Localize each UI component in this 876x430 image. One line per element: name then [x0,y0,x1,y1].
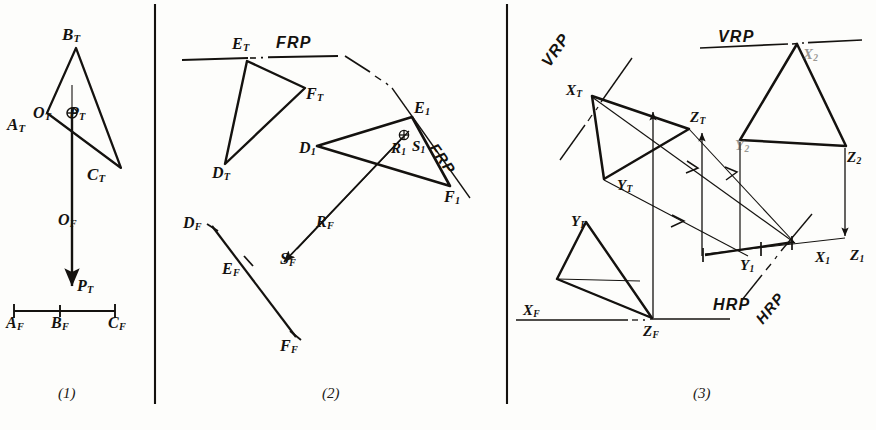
label-z-front: ZF [643,324,659,339]
label-f-aux: F1 [444,189,460,206]
label-s-aux: S1 [412,139,426,154]
label-b-front: BF [51,315,69,332]
label-a-top: AT [7,116,25,134]
label-y-aux2: Y2 [735,138,749,153]
label-x-aux2: X2 [803,47,818,62]
panel2-pierce-point-symbol [399,130,408,139]
caption-panel-2: (2) [322,385,340,402]
label-f-top: FT [306,86,323,103]
caption-panel-1: (1) [58,385,76,402]
label-e-top: ET [232,36,249,53]
label-d-top: DT [212,165,230,182]
label-c-top: CT [87,166,105,184]
label-z-aux1: Z1 [850,248,864,263]
figure-linework [0,0,876,430]
label-r-aux: R1 [391,141,406,156]
label-y-aux1: Y1 [740,258,754,273]
label-o-front: OF [58,212,77,229]
panel3-hrp-center-line [516,319,730,320]
panel2-front-view-edge-line-DEF [207,224,301,340]
figure-sheet: BT AT CT OT PT OF PT AF BF CF ET FRP FT … [0,0,876,430]
label-x-front: XF [523,303,540,318]
bottom-partial-text [0,418,876,430]
plane-label-vrp-right: VRP [718,28,755,46]
label-b-top: BT [62,26,80,44]
label-y-front: YF [571,214,587,229]
label-y-top: YT [617,178,632,193]
label-c-front: CF [108,315,126,332]
label-d-aux: D1 [299,140,316,157]
label-f-front: FF [280,338,298,355]
label-x-top: XT [566,83,582,98]
panel3-vrp-left-line [560,58,632,160]
label-r-front: RF [316,214,334,231]
plane-label-hrp-center: HRP [713,296,750,314]
plane-label-frp-top: FRP [276,34,312,52]
label-p-front: PT [77,278,93,295]
label-z-aux2: Z2 [847,150,861,165]
label-s-front: SF [280,251,296,268]
label-z-top: ZT [690,110,705,125]
label-e-aux: E1 [414,100,430,117]
label-x-aux1: X1 [815,250,830,265]
panel2-top-view-triangle-DEF [225,61,305,164]
panel2-frp-reference-line [182,56,338,60]
label-p-top: PT [69,105,85,122]
panel3-auxiliary-triangle-XYZ2 [740,44,846,146]
label-e-front: EF [222,261,240,278]
panel3-top-view-triangle-XYZ [592,96,689,179]
label-o-top: OT [33,105,51,122]
label-d-front: DF [183,215,202,232]
label-a-front: AF [6,315,24,332]
panel3-hrp-rotated-line [742,214,812,300]
panel2-auxiliary-frp-line [345,56,470,198]
panel3-front-view-triangle-XYZ [557,222,652,318]
caption-panel-3: (3) [693,385,711,402]
